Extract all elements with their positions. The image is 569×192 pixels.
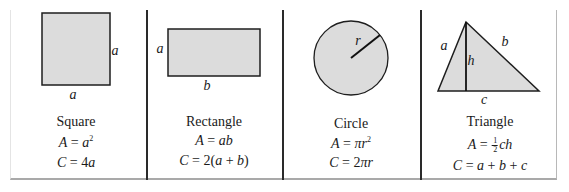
square-shape (42, 13, 110, 85)
square-title: Square (57, 115, 96, 129)
circle-circumference-formula: C = 2πr (329, 156, 373, 170)
circle-radius-label: r (355, 34, 360, 48)
triangle-height-label: h (468, 54, 475, 68)
rectangle-side-label-left: a (157, 42, 164, 56)
rectangle-area-formula: A = ab (195, 134, 232, 148)
rectangle-circumference-formula: C = 2(a + b) (179, 154, 249, 168)
fraction-one-half: 12 (492, 137, 498, 154)
square-side-label-bottom: a (70, 88, 77, 102)
triangle-shape (438, 22, 539, 91)
rectangle-side-label-bottom: b (204, 79, 211, 93)
triangle-title: Triangle (467, 115, 514, 129)
triangle-area-formula: A = 12ch (468, 137, 513, 154)
triangle-base-label: c (481, 93, 487, 107)
triangle-side-b-label: b (502, 35, 509, 49)
circle-area-formula: A = πr2 (331, 137, 371, 151)
square-area-formula: A = a2 (59, 136, 93, 150)
triangle-circumference-formula: C = a + b + c (453, 159, 527, 173)
triangle-side-a-label: a (441, 39, 448, 53)
rectangle-title: Rectangle (186, 115, 242, 129)
square-circumference-formula: C = 4a (57, 156, 95, 170)
circle-title: Circle (334, 117, 368, 131)
rectangle-shape (168, 29, 260, 76)
square-side-label-right: a (112, 44, 119, 58)
